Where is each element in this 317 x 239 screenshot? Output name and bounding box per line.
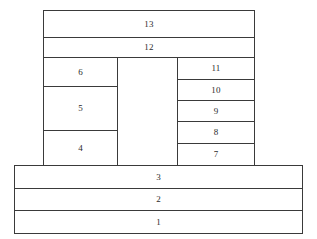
left-column-cell: 4 — [43, 130, 118, 166]
layer-stack-diagram: 1312 654 1110987 321 — [0, 0, 317, 239]
right-column-cell: 11 — [177, 57, 255, 80]
left-column-cell: 6 — [43, 57, 118, 87]
substrate-layer-cell: 1 — [14, 210, 303, 234]
layer-number-label: 10 — [211, 85, 220, 94]
substrate-layer-cell: 2 — [14, 188, 303, 211]
layer-number-label: 13 — [144, 19, 153, 28]
layer-number-label: 2 — [156, 195, 161, 204]
layer-number-label: 11 — [211, 64, 220, 73]
layer-number-label: 7 — [214, 150, 219, 159]
center-column-cell — [117, 57, 178, 166]
right-column-cell: 8 — [177, 121, 255, 144]
layer-number-label: 5 — [78, 104, 83, 113]
substrate-layer-cell: 3 — [14, 165, 303, 189]
left-column-cell: 5 — [43, 86, 118, 131]
top-layer-cell: 12 — [43, 37, 255, 58]
layer-number-label: 12 — [144, 43, 153, 52]
top-layer-cell: 13 — [43, 10, 255, 38]
layer-number-label: 1 — [156, 217, 161, 226]
layer-number-label: 6 — [78, 67, 83, 76]
layer-number-label: 3 — [156, 172, 161, 181]
right-column-cell: 7 — [177, 143, 255, 166]
right-column-cell: 9 — [177, 100, 255, 122]
right-column-cell: 10 — [177, 79, 255, 101]
layer-number-label: 4 — [78, 143, 83, 152]
layer-number-label: 8 — [214, 128, 219, 137]
layer-number-label: 9 — [214, 106, 219, 115]
